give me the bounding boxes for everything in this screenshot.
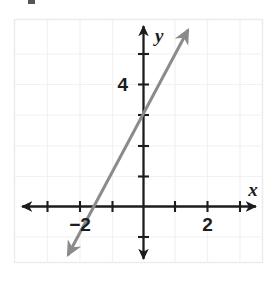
coordinate-graph-figure: 4 −2 2 y x xyxy=(0,0,276,282)
y-tick-label-4: 4 xyxy=(117,74,128,95)
y-axis-name-label: y xyxy=(153,25,164,46)
stray-ink-mark xyxy=(28,0,35,4)
plot-area-border xyxy=(15,20,263,263)
x-tick-label-2: 2 xyxy=(202,214,213,235)
coordinate-plane-svg: 4 −2 2 y x xyxy=(0,0,276,282)
x-tick-label-minus-2: −2 xyxy=(69,214,91,235)
x-axis-name-label: x xyxy=(247,179,258,200)
